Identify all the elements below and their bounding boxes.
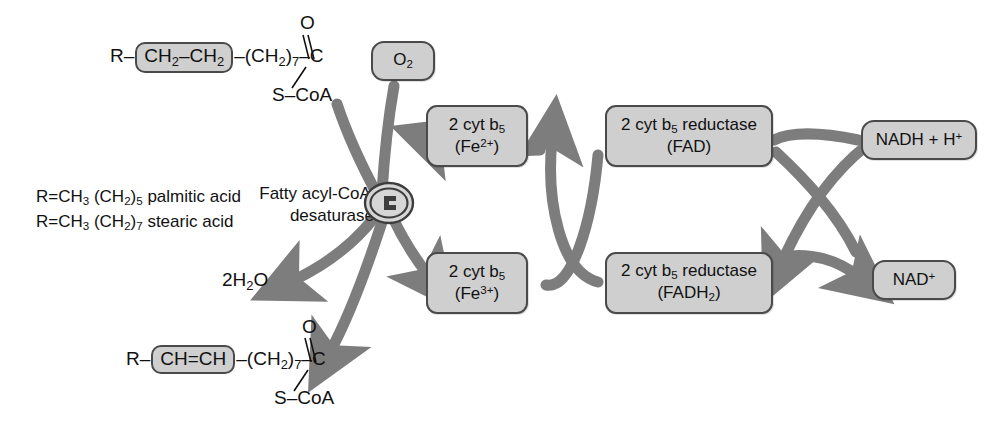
substrate-oxygen: O [300, 12, 315, 34]
substrate-highlight: CH2–CH2 [135, 42, 233, 73]
node-nadh[interactable]: NADH + H+ [861, 120, 977, 160]
r-formula-stearic: R=CH3 (CH2)7 [36, 212, 143, 231]
node-reductase-fad-line1: 2 cyt b5 reductase [621, 115, 757, 137]
arrow-nadh-to-reductase-fad [774, 134, 858, 140]
substrate-double-bond [297, 33, 319, 63]
r-definition-stearic: R=CH3 (CH2)7 stearic acid [36, 211, 233, 234]
node-o2-label: O2 [393, 50, 413, 72]
node-reductase-fadh2-line2: (FADH2) [657, 283, 720, 305]
r-formula-palmitic: R=CH3 (CH2)5 [36, 187, 143, 206]
enzyme-oval-icon [362, 180, 416, 226]
node-nadh-label: NADH + H+ [876, 130, 963, 150]
r-name-stearic: stearic acid [147, 212, 233, 231]
node-nad[interactable]: NAD+ [872, 260, 956, 300]
product-thioester: S–CoA [274, 387, 334, 409]
node-reductase-fadh2-line1: 2 cyt b5 reductase [621, 261, 757, 283]
enzyme-label: Fatty acyl-CoA desaturase [250, 183, 380, 227]
node-cyt-b5-oxidized-line2: (Fe3+) [455, 284, 499, 304]
node-cyt-b5-reduced-line2: (Fe2+) [455, 137, 499, 157]
substrate-prefix: R– [110, 45, 134, 66]
product-double-bond [299, 336, 321, 366]
r-definition-palmitic: R=CH3 (CH2)5 palmitic acid [36, 186, 241, 209]
node-o2[interactable]: O2 [371, 41, 435, 81]
r-name-palmitic: palmitic acid [147, 187, 241, 206]
substrate-thioester: S–CoA [272, 84, 332, 106]
enzyme-label-line1: Fatty acyl-CoA [259, 184, 370, 203]
node-nad-label: NAD+ [893, 270, 936, 290]
product-oxygen: O [302, 316, 317, 338]
node-cyt-b5-oxidized[interactable]: 2 cyt b5 (Fe3+) [426, 252, 528, 314]
product-highlight: CH=CH [151, 345, 235, 374]
arrow-o2-to-enzyme [382, 86, 394, 192]
product-prefix: R– [126, 348, 150, 369]
desaturase-diagram: R–CH2–CH2–(CH2)7–C O S–CoA R–CH=CH–(CH2)… [0, 0, 988, 425]
enzyme-label-line2: desaturase [250, 205, 380, 227]
node-reductase-fad-line2: (FAD) [667, 137, 711, 157]
node-reductase-fadh2[interactable]: 2 cyt b5 reductase (FADH2) [605, 252, 773, 314]
node-reductase-fad[interactable]: 2 cyt b5 reductase (FAD) [605, 105, 773, 167]
node-cyt-b5-reduced-line1: 2 cyt b5 [449, 115, 506, 137]
node-water-label: 2H2O [222, 268, 268, 294]
node-cyt-b5-oxidized-line1: 2 cyt b5 [449, 262, 506, 284]
node-cyt-b5-reduced[interactable]: 2 cyt b5 (Fe2+) [426, 105, 528, 167]
